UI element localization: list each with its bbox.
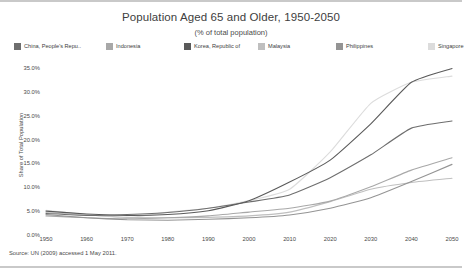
legend-label: Malaysia — [268, 43, 290, 50]
legend-swatch-icon — [184, 43, 191, 50]
line-series-svg — [0, 56, 462, 242]
x-tick-label: 2050 — [432, 236, 468, 242]
x-axis: 1950196019701980199020002010202020302040… — [0, 236, 462, 248]
series-line-singapore — [46, 76, 452, 218]
series-line-korea-republic-of — [46, 68, 452, 215]
top-divider — [0, 0, 462, 2]
legend-swatch-icon — [428, 43, 435, 50]
chart-subtitle: (% of total population) — [0, 28, 462, 37]
legend-swatch-icon — [336, 43, 343, 50]
legend-label: Korea, Republic of — [194, 43, 240, 50]
chart-title: Population Aged 65 and Older, 1950-2050 — [0, 11, 462, 23]
legend-item-philippines[interactable]: Philippines — [336, 41, 373, 52]
legend-label: Singapore — [438, 43, 464, 50]
series-line-indonesia — [46, 158, 452, 219]
x-tick-label: 2040 — [391, 236, 431, 242]
x-tick-label: 2000 — [229, 236, 269, 242]
x-tick-label: 1980 — [148, 236, 188, 242]
x-tick-label: 1950 — [26, 236, 66, 242]
x-tick-label: 2020 — [310, 236, 350, 242]
legend-item-korea-republic-of[interactable]: Korea, Republic of — [184, 41, 240, 52]
legend-item-singapore[interactable]: Singapore — [428, 41, 464, 52]
legend-label: China, People's Repu.. — [24, 43, 81, 50]
legend-swatch-icon — [106, 43, 113, 50]
x-tick-label: 2030 — [351, 236, 391, 242]
x-tick-label: 1990 — [188, 236, 228, 242]
x-axis-tick-labels: 1950196019701980199020002010202020302040… — [0, 236, 462, 248]
legend-item-malaysia[interactable]: Malaysia — [258, 41, 290, 52]
chart-legend: China, People's Repu..IndonesiaKorea, Re… — [14, 41, 450, 52]
legend-item-indonesia[interactable]: Indonesia — [106, 41, 140, 52]
x-tick-label: 1970 — [107, 236, 147, 242]
legend-label: Indonesia — [116, 43, 140, 50]
x-tick-label: 1960 — [67, 236, 107, 242]
legend-label: Philippines — [346, 43, 373, 50]
series-line-china-people-s-repu — [46, 121, 452, 215]
source-note: Source: UN (2009) accessed 1 May 2011. — [9, 250, 117, 256]
legend-item-china-people-s-repu[interactable]: China, People's Repu.. — [14, 41, 81, 52]
legend-swatch-icon — [258, 43, 265, 50]
x-tick-label: 2010 — [270, 236, 310, 242]
legend-swatch-icon — [14, 43, 21, 50]
plot-area: Share of Total Population 0.0%5.0%10.0%1… — [0, 56, 462, 242]
